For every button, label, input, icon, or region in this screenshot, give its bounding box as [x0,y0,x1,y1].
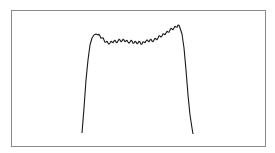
plot-frame [12,11,266,147]
line-chart [0,0,275,153]
data-line [82,25,193,134]
